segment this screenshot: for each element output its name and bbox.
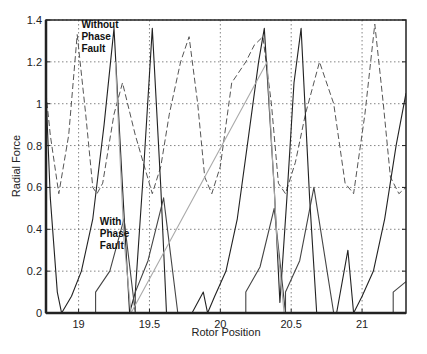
- y-tick-label: 1.2: [27, 56, 42, 68]
- x-tick-label: 19.5: [139, 318, 160, 330]
- y-axis-label: Radial Force: [10, 135, 22, 197]
- y-tick-label: 0.4: [27, 223, 42, 235]
- y-tick-label: 0.2: [27, 265, 42, 277]
- y-tick-label: 0.6: [27, 181, 42, 193]
- x-tick-label: 20.5: [280, 318, 301, 330]
- y-tick-label: 0: [36, 307, 42, 319]
- y-tick-label: 1: [36, 98, 42, 110]
- chart-background: [0, 0, 427, 354]
- x-tick-label: 19: [72, 318, 84, 330]
- x-tick-label: 21: [356, 318, 368, 330]
- y-tick-label: 1.4: [27, 14, 42, 26]
- radial-force-chart: 1919.52020.521 00.20.40.60.811.21.4 With…: [0, 0, 427, 354]
- y-tick-label: 0.8: [27, 140, 42, 152]
- x-axis-label: Rotor Position: [191, 326, 260, 338]
